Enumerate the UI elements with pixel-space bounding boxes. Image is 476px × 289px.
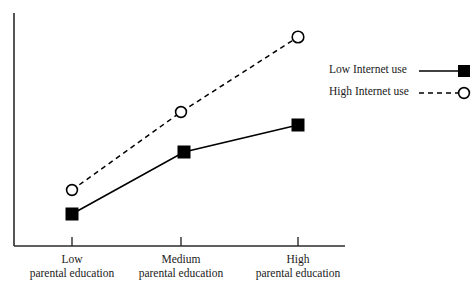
- x-axis-label-low: Low parental education: [12, 252, 132, 280]
- x-axis-label-low-line1: Low: [12, 252, 132, 266]
- x-axis-label-low-line2: parental education: [12, 266, 132, 280]
- series-line-low-internet-use: [72, 125, 298, 214]
- legend-swatch-low-internet-use: [419, 60, 473, 82]
- chart-figure: Low parental education Medium parental e…: [0, 0, 476, 289]
- chart-legend: Low Internet use High Internet use: [329, 60, 473, 104]
- x-axis-label-high-line1: High: [238, 252, 358, 266]
- data-point-high-high: [292, 31, 304, 43]
- x-axis-label-high: High parental education: [238, 252, 358, 280]
- data-point-low-high: [292, 119, 305, 132]
- data-point-low-medium: [178, 146, 191, 159]
- legend-label-low-internet-use: Low Internet use: [329, 62, 407, 76]
- legend-label-high-internet-use: High Internet use: [329, 84, 409, 98]
- x-axis-label-medium: Medium parental education: [121, 252, 241, 280]
- data-point-high-low: [67, 185, 78, 196]
- x-axis-label-medium-line2: parental education: [121, 266, 241, 280]
- legend-item-high-internet-use: High Internet use: [329, 82, 473, 104]
- data-point-high-medium: [176, 107, 187, 118]
- data-point-low-low: [66, 208, 79, 221]
- legend-item-low-internet-use: Low Internet use: [329, 60, 473, 82]
- x-axis-label-high-line2: parental education: [238, 266, 358, 280]
- x-axis-label-medium-line1: Medium: [121, 252, 241, 266]
- legend-swatch-high-internet-use: [419, 82, 473, 104]
- line-chart-plot: [0, 0, 476, 289]
- legend-marker-filled-square: [458, 65, 470, 77]
- legend-marker-open-circle: [459, 88, 470, 99]
